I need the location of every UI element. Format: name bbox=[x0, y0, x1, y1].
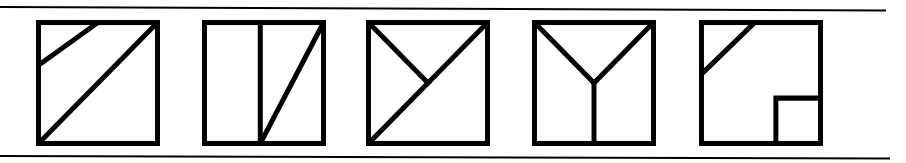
horizontal-rule-top bbox=[0, 6, 886, 11]
figure-panel-4 bbox=[532, 20, 656, 146]
square-frame bbox=[204, 23, 323, 144]
square-frame bbox=[701, 23, 820, 144]
figure-3-drawing bbox=[366, 20, 490, 146]
figure-panel-5 bbox=[699, 20, 823, 146]
figure-panel-2 bbox=[202, 20, 326, 146]
figure-panel-1 bbox=[36, 20, 160, 146]
figure-5-drawing bbox=[699, 20, 823, 146]
figure-2-drawing bbox=[202, 20, 326, 146]
figure-sheet bbox=[0, 0, 906, 163]
figure-1-drawing bbox=[36, 20, 160, 146]
figure-4-drawing bbox=[532, 20, 656, 146]
figure-panel-3 bbox=[366, 20, 490, 146]
horizontal-rule-bottom bbox=[0, 155, 890, 159]
